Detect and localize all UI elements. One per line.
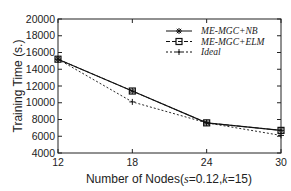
y-axis-title: Training Time (s.)	[11, 40, 25, 133]
x-tick-label: 30	[275, 156, 287, 168]
legend-label: ME-MGC+NB	[200, 26, 258, 36]
legend-label: Ideal	[200, 47, 221, 57]
training-time-chart: 4000600080001000012000140001600018000200…	[0, 0, 291, 191]
y-tick-label: 20000	[26, 13, 55, 25]
y-tick-label: 6000	[32, 130, 56, 142]
legend-label: ME-MGC+ELM	[200, 37, 265, 47]
y-tick-label: 18000	[26, 29, 55, 41]
y-tick-label: 10000	[26, 96, 55, 108]
x-tick-label: 24	[201, 156, 213, 168]
x-tick-label: 12	[52, 156, 64, 168]
y-tick-label: 8000	[32, 113, 56, 125]
y-tick-label: 14000	[26, 63, 55, 75]
y-tick-label: 16000	[26, 46, 55, 58]
x-axis-title: Number of Nodes(s=0.12,k=15)	[86, 172, 252, 186]
x-tick-label: 18	[126, 156, 138, 168]
y-tick-label: 12000	[26, 80, 55, 92]
